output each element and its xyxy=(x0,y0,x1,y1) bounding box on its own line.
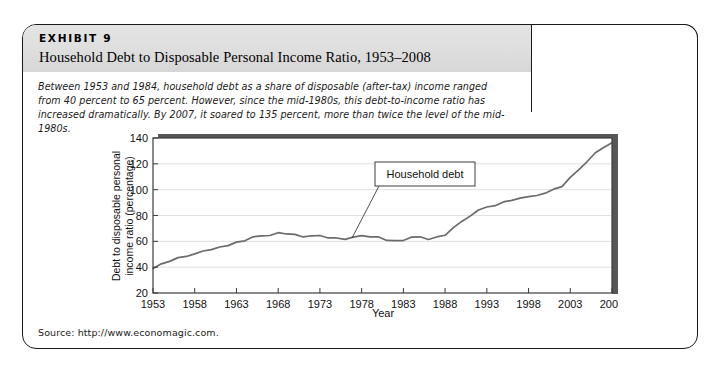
y-tick-label: 80 xyxy=(136,210,148,222)
x-tick-label: 1993 xyxy=(475,298,499,310)
exhibit-label: EXHIBIT 9 xyxy=(39,31,531,45)
x-tick-label: 1983 xyxy=(391,298,415,310)
svg-text:Debt to disposable personal: Debt to disposable personal xyxy=(110,151,122,281)
side-panel-box xyxy=(531,24,698,112)
x-tick-label: 2008 xyxy=(600,298,618,310)
chart-figure: 20406080100120140 1953195819631968197319… xyxy=(108,128,618,320)
x-tick-label: 1958 xyxy=(182,298,206,310)
x-tick-label: 1988 xyxy=(433,298,457,310)
x-tick-label: 2003 xyxy=(558,298,582,310)
y-tick-label: 140 xyxy=(130,132,148,144)
exhibit-title: Household Debt to Disposable Personal In… xyxy=(39,47,531,67)
y-tick-label: 40 xyxy=(136,261,148,273)
y-axis-title: Debt to disposable personal income ratio… xyxy=(110,151,135,281)
line-chart: 20406080100120140 1953195819631968197319… xyxy=(108,128,618,320)
annotation-label: Household debt xyxy=(386,168,463,180)
exhibit-source: Source: http://www.economagic.com. xyxy=(38,327,219,338)
x-tick-label: 1953 xyxy=(141,298,165,310)
x-tick-label: 1968 xyxy=(266,298,290,310)
x-tick-label: 1978 xyxy=(349,298,373,310)
exhibit-header-band: EXHIBIT 9 Household Debt to Disposable P… xyxy=(23,25,531,72)
x-tick-label: 1998 xyxy=(516,298,540,310)
x-tick-label: 1973 xyxy=(308,298,332,310)
svg-text:income ratio (percentage): income ratio (percentage) xyxy=(123,156,135,276)
x-axis-title: Year xyxy=(372,307,395,319)
x-tick-label: 1963 xyxy=(224,298,248,310)
y-tick-label: 60 xyxy=(136,235,148,247)
